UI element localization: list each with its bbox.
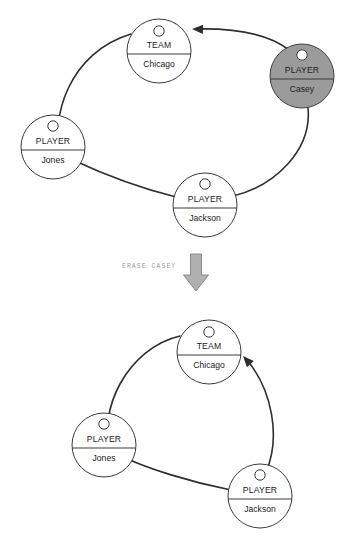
node-handle-circle-icon [200,179,210,189]
graph-scene: TEAMChicagoPLAYERCaseyPLAYERJonesPLAYERJ… [0,0,352,552]
node-handle-circle-icon [154,26,164,36]
node-handle-circle-icon [255,470,265,480]
node-handle-circle-icon [99,419,109,429]
node-player-jones-value-label: Jones [93,453,116,463]
node-handle-circle-icon [48,121,58,131]
transition-group: ERASE CASEY [122,254,209,291]
node-player-jones-type-label: PLAYER [87,434,121,444]
node-player-casey-type-label: PLAYER [285,65,319,75]
graph-before-erase: TEAMChicagoPLAYERCaseyPLAYERJonesPLAYERJ… [21,19,334,237]
node-player-jones-value-label: Jones [42,155,65,165]
node-handle-circle-icon [204,327,214,337]
edge-casey-to-team-arrowhead [192,25,203,34]
graph-before-erase-edge-overlay [192,25,203,34]
graph-after-erase: TEAMChicagoPLAYERJonesPLAYERJackson [72,320,292,528]
node-player-jones-type-label: PLAYER [36,136,70,146]
node-player-jackson[interactable]: PLAYERJackson [228,464,292,528]
node-team-chicago[interactable]: TEAMChicago [177,320,241,384]
transition-label: ERASE CASEY [122,263,176,270]
edge-jackson-to-jones[interactable] [119,455,231,490]
node-player-jackson-type-label: PLAYER [188,194,222,204]
graph-before-erase-nodes: TEAMChicagoPLAYERCaseyPLAYERJonesPLAYERJ… [21,19,334,237]
node-handle-circle-icon [297,50,307,60]
node-team-chicago-type-label: TEAM [147,40,172,50]
edge-casey-to-team[interactable] [196,29,289,50]
node-player-jones[interactable]: PLAYERJones [21,115,85,179]
node-player-jackson-value-label: Jackson [189,213,221,223]
diagram-canvas: TEAMChicagoPLAYERCaseyPLAYERJonesPLAYERJ… [0,0,352,552]
node-team-chicago-value-label: Chicago [193,360,225,370]
node-player-casey-value-label: Casey [290,84,315,94]
graph-after-erase-nodes: TEAMChicagoPLAYERJonesPLAYERJackson [72,320,292,528]
edge-jackson-to-team[interactable] [247,360,273,472]
node-team-chicago[interactable]: TEAMChicago [127,19,191,83]
node-player-jackson-type-label: PLAYER [243,485,277,495]
node-team-chicago-type-label: TEAM [197,341,222,351]
edge-jackson-to-jones[interactable] [73,160,176,197]
node-player-jackson-value-label: Jackson [244,504,276,514]
node-player-jackson[interactable]: PLAYERJackson [173,173,237,237]
edge-casey-to-jackson[interactable] [233,108,308,196]
node-player-casey[interactable]: PLAYERCasey [270,44,334,108]
node-team-chicago-value-label: Chicago [143,59,175,69]
down-block-arrow-icon [184,254,209,291]
node-player-jones[interactable]: PLAYERJones [72,413,136,477]
